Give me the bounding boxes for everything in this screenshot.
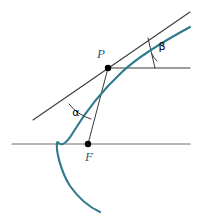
point-F-label: F [84,149,94,164]
figure-background [0,0,198,219]
point-F-marker [85,141,91,147]
parabola-reflection-diagram: P F α β [0,0,198,219]
beta-angle-label: β [158,40,165,53]
point-P-marker [105,65,111,71]
alpha-angle-label: α [72,106,79,119]
point-P-label: P [96,46,105,61]
figure-container: P F α β [0,0,198,219]
